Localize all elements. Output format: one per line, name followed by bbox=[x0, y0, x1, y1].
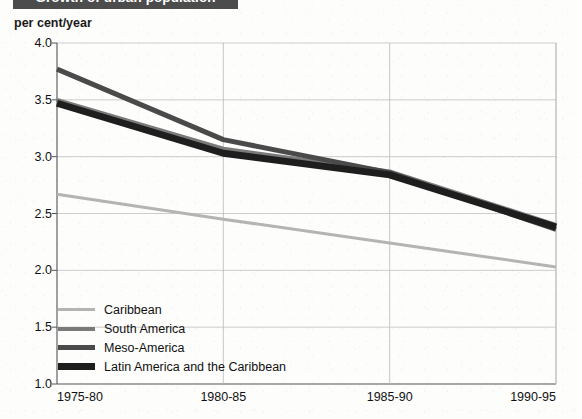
legend-color-swatch bbox=[58, 345, 95, 350]
legend-color-swatch bbox=[58, 363, 95, 370]
x-axis-tick-label: 1985-90 bbox=[367, 390, 413, 404]
legend-item-label: Meso-America bbox=[104, 341, 185, 355]
x-axis-tick-label: 1975-80 bbox=[57, 390, 103, 404]
x-axis-tick-label: 1980-85 bbox=[200, 390, 246, 404]
legend-color-swatch bbox=[58, 327, 95, 331]
chart-legend: CaribbeanSouth AmericaMeso-AmericaLatin … bbox=[58, 300, 358, 376]
legend-color-swatch bbox=[58, 308, 95, 311]
legend-item[interactable]: Caribbean bbox=[58, 300, 358, 319]
legend-item[interactable]: Latin America and the Caribbean bbox=[58, 357, 358, 376]
x-axis-tick-label: 1990-95 bbox=[510, 390, 556, 404]
legend-item-label: South America bbox=[104, 322, 185, 336]
legend-item[interactable]: Meso-America bbox=[58, 338, 358, 357]
legend-item-label: Latin America and the Caribbean bbox=[104, 360, 286, 374]
legend-item-label: Caribbean bbox=[104, 303, 162, 317]
legend-item[interactable]: South America bbox=[58, 319, 358, 338]
